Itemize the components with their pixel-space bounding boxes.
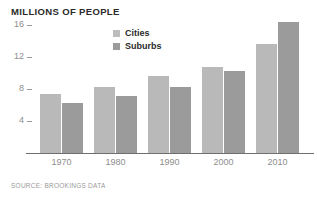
x-tick-label: 1970 — [40, 157, 83, 167]
y-tick-mark — [27, 57, 32, 58]
chart-title: MILLIONS OF PEOPLE — [11, 6, 120, 17]
x-tick-label: 2000 — [202, 157, 245, 167]
bar-suburbs-1970 — [62, 103, 83, 153]
y-tick-label: 8 — [8, 83, 24, 93]
y-tick-mark — [27, 25, 32, 26]
bar-suburbs-1990 — [170, 87, 191, 153]
y-tick-label: 4 — [8, 115, 24, 125]
bar-cities-1980 — [94, 87, 115, 153]
y-tick-mark — [27, 89, 32, 90]
bar-cities-2010 — [256, 44, 277, 153]
y-tick-mark — [27, 121, 32, 122]
x-tick-label: 2010 — [256, 157, 299, 167]
bar-cities-1990 — [148, 76, 169, 153]
source-note: SOURCE: BROOKINGS DATA — [11, 182, 105, 189]
x-tick-label: 1980 — [94, 157, 137, 167]
bar-suburbs-2010 — [278, 22, 299, 153]
bar-cities-1970 — [40, 94, 61, 153]
y-tick-label: 12 — [8, 51, 24, 61]
bar-suburbs-1980 — [116, 96, 137, 153]
bar-chart: MILLIONS OF PEOPLE Cities Suburbs 481216… — [0, 0, 317, 201]
axis-baseline — [26, 153, 314, 154]
x-tick-label: 1990 — [148, 157, 191, 167]
y-tick-label: 16 — [8, 19, 24, 29]
bar-cities-2000 — [202, 67, 223, 153]
bar-suburbs-2000 — [224, 71, 245, 153]
